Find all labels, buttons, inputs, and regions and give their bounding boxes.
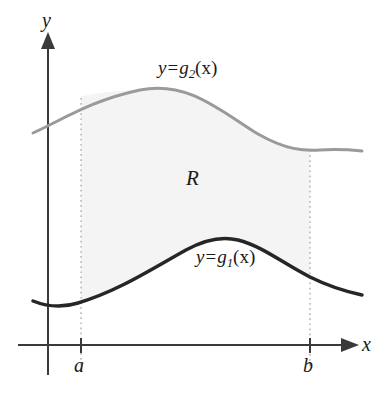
y-axis-arrowhead: [41, 32, 55, 49]
lower-label-fn: g: [217, 246, 227, 267]
lower-label-arg: (x): [233, 246, 255, 267]
bound-label-b: b: [303, 355, 313, 375]
upper-curve-label: y=g2(x): [158, 58, 217, 81]
region-fill-rect: [81, 80, 310, 310]
upper-label-arg: (x): [195, 57, 217, 78]
lower-label-equals: =: [204, 246, 217, 267]
x-axis-label: x: [362, 334, 371, 354]
y-axis: [41, 32, 55, 375]
bound-label-a: a: [74, 355, 84, 375]
y-axis-label: y: [42, 10, 51, 30]
shaded-region-R: [81, 80, 310, 310]
upper-label-fn: g: [179, 57, 189, 78]
region-label: R: [186, 168, 199, 189]
x-axis-arrowhead: [341, 338, 359, 352]
x-axis: [18, 338, 359, 352]
figure-region-between-curves: the contour a a a a a a a an a a a a an …: [0, 0, 390, 401]
upper-label-equals: =: [166, 57, 179, 78]
lower-curve-label: y=g1(x): [196, 247, 255, 270]
